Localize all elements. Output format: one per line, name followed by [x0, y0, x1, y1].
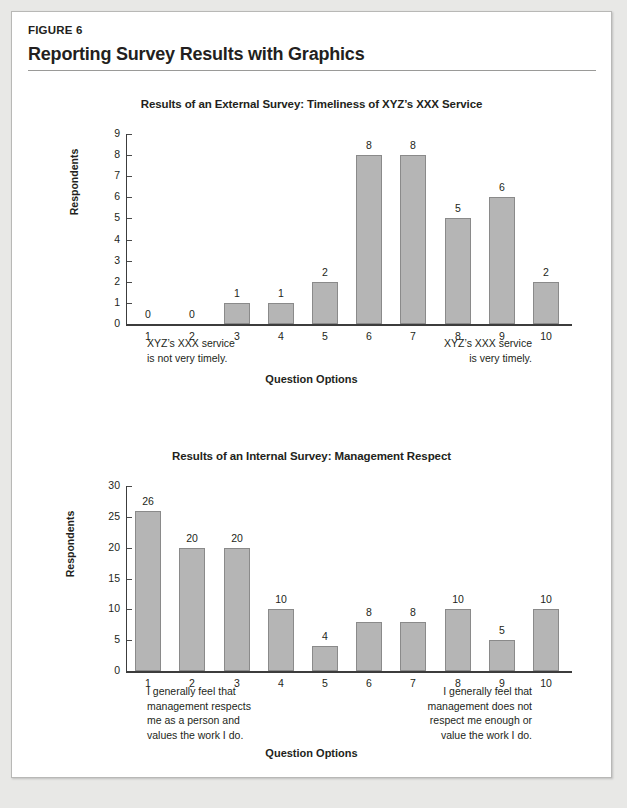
y-axis-tick-label: 7 [92, 169, 120, 181]
y-axis-tick-label: 10 [92, 602, 120, 614]
y-axis-tick-label: 3 [92, 254, 120, 266]
bar-value-label: 8 [349, 139, 389, 151]
bar-value-label: 8 [393, 606, 433, 618]
x-axis-tick-label: 10 [526, 330, 566, 342]
bar-value-label: 10 [526, 593, 566, 605]
chart-internal-survey: Results of an Internal Survey: Managemen… [12, 450, 611, 770]
y-axis-tick [127, 517, 132, 518]
y-axis-tick [127, 134, 132, 135]
plot-area: 051015202530261202203104458687108591010 [12, 450, 611, 675]
y-axis-tick [127, 218, 132, 219]
y-axis-tick [127, 176, 132, 177]
y-axis-tick-label: 1 [92, 296, 120, 308]
y-axis-tick [127, 155, 132, 156]
x-axis-line [126, 671, 572, 673]
bar-value-label: 8 [349, 606, 389, 618]
y-axis-tick-label: 0 [92, 317, 120, 329]
figure-number: FIGURE 6 [28, 22, 596, 38]
y-axis-tick [127, 240, 132, 241]
bar [356, 622, 382, 671]
y-axis-line [126, 134, 127, 325]
y-axis-tick-label: 5 [92, 633, 120, 645]
y-axis-tick-label: 30 [92, 479, 120, 491]
header-divider [28, 70, 596, 71]
bar [400, 622, 426, 671]
plot-area: 0123456789010213142586875869210 [12, 98, 611, 328]
bar [224, 303, 250, 324]
bar [135, 511, 161, 671]
bar [445, 218, 471, 324]
y-axis-tick-label: 8 [92, 148, 120, 160]
bar-value-label: 4 [305, 630, 345, 642]
bar [489, 640, 515, 671]
y-axis-tick [127, 609, 132, 610]
y-axis-tick [127, 640, 132, 641]
y-axis-tick [127, 261, 132, 262]
bar-value-label: 2 [305, 266, 345, 278]
bar-value-label: 1 [217, 287, 257, 299]
bar-value-label: 6 [482, 181, 522, 193]
bar [533, 282, 559, 324]
bar [533, 609, 559, 671]
bar [268, 303, 294, 324]
bar-value-label: 0 [128, 308, 168, 320]
annotation-right: XYZ’s XXX service is very timely. [342, 336, 532, 365]
bar [489, 197, 515, 324]
bar-value-label: 5 [438, 202, 478, 214]
y-axis-tick-label: 15 [92, 572, 120, 584]
y-axis-tick [127, 548, 132, 549]
y-axis-tick [127, 282, 132, 283]
bar-value-label: 8 [393, 139, 433, 151]
x-axis-tick-label: 10 [526, 677, 566, 689]
y-axis-tick-label: 20 [92, 541, 120, 553]
bar-value-label: 10 [438, 593, 478, 605]
annotation-left: I generally feel that management respect… [147, 684, 327, 742]
x-axis-label: Question Options [12, 373, 611, 385]
bar [445, 609, 471, 671]
bar [224, 548, 250, 671]
chart-external-survey: Results of an External Survey: Timelines… [12, 98, 611, 398]
bar-value-label: 0 [172, 308, 212, 320]
bar-value-label: 10 [261, 593, 301, 605]
figure-card: FIGURE 6 Reporting Survey Results with G… [11, 11, 612, 778]
y-axis-tick-label: 6 [92, 190, 120, 202]
y-axis-tick [127, 303, 132, 304]
y-axis-tick-label: 0 [92, 664, 120, 676]
bar [356, 155, 382, 324]
y-axis-tick-label: 5 [92, 211, 120, 223]
x-axis-line [126, 324, 572, 326]
bar-value-label: 26 [128, 495, 168, 507]
bar-value-label: 2 [526, 266, 566, 278]
y-axis-tick-label: 2 [92, 275, 120, 287]
figure-header: FIGURE 6 Reporting Survey Results with G… [28, 22, 596, 71]
y-axis-tick [127, 579, 132, 580]
y-axis-tick-label: 25 [92, 510, 120, 522]
figure-title: Reporting Survey Results with Graphics [28, 41, 596, 67]
y-axis-tick-label: 9 [92, 127, 120, 139]
y-axis-tick [127, 486, 132, 487]
bar-value-label: 20 [172, 532, 212, 544]
bar-value-label: 5 [482, 624, 522, 636]
annotation-right: I generally feel that management does no… [342, 684, 532, 742]
bar [312, 282, 338, 324]
bar [268, 609, 294, 671]
y-axis-tick-label: 4 [92, 233, 120, 245]
bar [312, 646, 338, 671]
bar [400, 155, 426, 324]
y-axis-tick [127, 197, 132, 198]
bar-value-label: 20 [217, 532, 257, 544]
bar [179, 548, 205, 671]
annotation-left: XYZ’s XXX service is not very timely. [147, 336, 327, 365]
bar-value-label: 1 [261, 287, 301, 299]
x-axis-label: Question Options [12, 747, 611, 759]
